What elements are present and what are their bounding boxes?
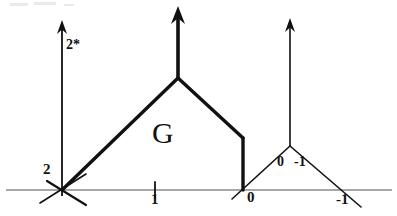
- scan-artifact-1: [34, 2, 56, 5]
- vertical-arrow-1-label: 2*: [66, 38, 80, 52]
- region-label-g: G: [152, 118, 174, 148]
- cross-mark-left-a: [40, 174, 86, 203]
- vertical-arrow-center: [171, 6, 185, 78]
- figure-svg: [0, 0, 397, 216]
- scan-artifact-0: [10, 3, 28, 6]
- large-tent-right-slope: [178, 78, 243, 138]
- small-tent-label-left: 0: [277, 155, 284, 169]
- figure-canvas: 2 1 0 -1 2* G 0 -1: [0, 0, 397, 216]
- small-tent-label-right: -1: [294, 155, 306, 169]
- axis-tick-label-minus-1: -1: [336, 192, 349, 207]
- axis-tick-label-2: 2: [43, 162, 51, 177]
- function-curves: [40, 78, 361, 207]
- axis-tick-label-0: 0: [247, 190, 255, 205]
- scan-artifact-2: [64, 4, 74, 6]
- vertical-arrows: [57, 6, 295, 196]
- vertical-arrow-right: [285, 18, 295, 146]
- axis-tick-label-1: 1: [151, 192, 159, 207]
